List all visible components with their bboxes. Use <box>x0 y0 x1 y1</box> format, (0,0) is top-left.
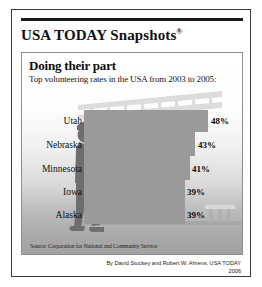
bar-series <box>22 53 242 254</box>
registered-trademark-icon: ® <box>176 27 182 36</box>
masthead-title: USA TODAY Snapshots® <box>21 21 243 43</box>
masthead: USA TODAY Snapshots® <box>21 18 243 43</box>
bar-utah <box>84 110 208 132</box>
chart-source: Source: Corporation for National and Com… <box>30 243 157 249</box>
byline-credit: By David Stuckey and Robert W. Ahrens, U… <box>106 260 241 268</box>
snapshot-card: USA TODAY Snapshots® <box>11 9 251 277</box>
category-label-nebraska: Nebraska <box>46 140 82 150</box>
category-label-utah: Utah <box>64 116 82 126</box>
bar-minnesota <box>84 156 190 180</box>
byline: By David Stuckey and Robert W. Ahrens, U… <box>106 260 241 275</box>
category-label-iowa: Iowa <box>63 187 82 197</box>
bar-iowa <box>84 180 185 202</box>
value-label-alaska: 39% <box>187 210 205 220</box>
chart-panel: Doing their part Top volunteering rates … <box>21 52 243 255</box>
value-label-minnesota: 41% <box>192 164 210 174</box>
category-label-minnesota: Minnesota <box>42 164 82 174</box>
masthead-title-text: USA TODAY Snapshots <box>21 27 176 43</box>
bar-alaska <box>84 202 185 224</box>
bar-nebraska <box>84 132 195 156</box>
value-label-nebraska: 43% <box>198 140 216 150</box>
value-label-iowa: 39% <box>187 187 205 197</box>
category-label-alaska: Alaska <box>56 210 82 220</box>
byline-year: 2006 <box>106 268 241 276</box>
value-label-utah: 48% <box>211 116 229 126</box>
